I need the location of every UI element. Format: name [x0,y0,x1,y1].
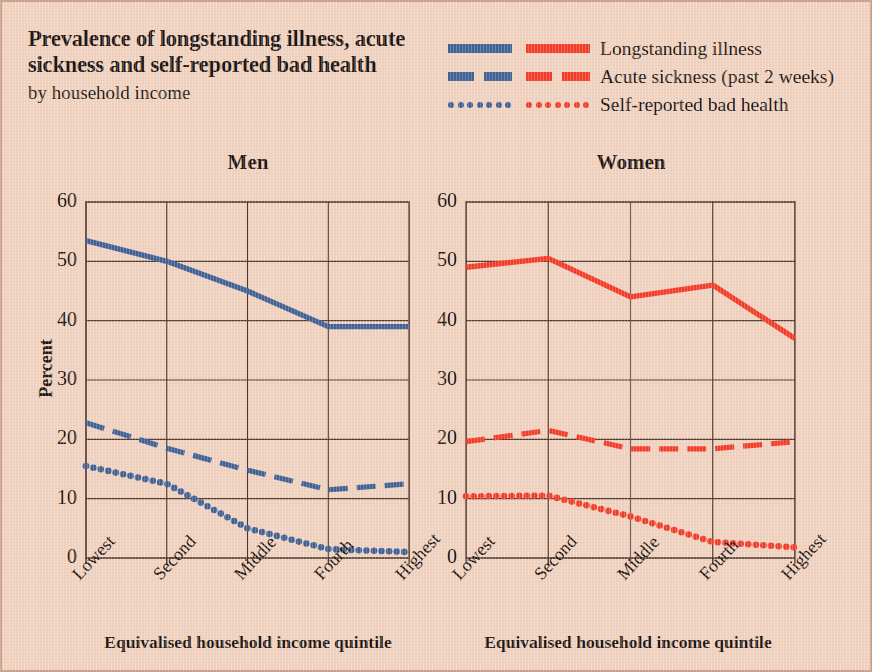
y-tick-label: 30 [421,367,457,390]
y-tick-label: 10 [421,486,457,509]
y-tick-label: 10 [41,486,77,509]
y-tick-label: 20 [41,426,77,449]
y-tick-label: 40 [421,308,457,331]
y-tick-label: 20 [421,426,457,449]
charts-canvas [0,0,872,672]
plot-women [463,202,797,564]
x-axis-label-men: Equivalised household income quintile [70,632,426,653]
y-tick-label: 50 [41,248,77,271]
series-dotted-women [463,492,797,550]
y-tick-label: 40 [41,308,77,331]
y-tick-label: 60 [421,189,457,212]
x-axis-label-women: Equivalised household income quintile [450,632,806,653]
y-tick-label: 60 [41,189,77,212]
series-dotted-men [83,463,408,556]
y-tick-label: 50 [421,248,457,271]
y-tick-label: 30 [41,367,77,390]
plot-men [83,202,409,564]
